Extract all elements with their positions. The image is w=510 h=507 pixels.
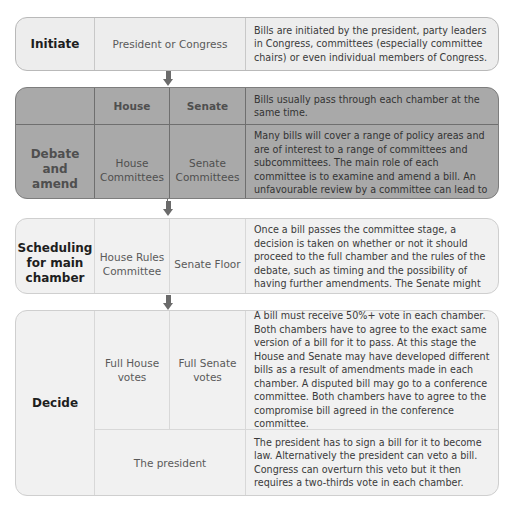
stage-decide: Decide Full House votes Full Senate vote…: [15, 310, 499, 496]
senate-cell: Senate Floor: [169, 219, 245, 294]
stage-description: Many bills will cover a range of policy …: [245, 124, 498, 199]
stage-description: Bills are initiated by the president, pa…: [245, 18, 498, 70]
house-cell: House Committees: [94, 124, 169, 199]
house-cell: House Rules Committee: [94, 219, 169, 294]
stage-label: Decide: [16, 311, 94, 495]
president-description: The president has to sign a bill for it …: [245, 429, 498, 495]
down-arrow-icon: [163, 199, 174, 217]
stage-description: A bill must receive 50%+ vote in each ch…: [245, 311, 498, 429]
header-description: Bills usually pass through each chamber …: [245, 88, 498, 124]
down-arrow-icon: [163, 294, 174, 310]
stage-initiate: Initiate President or Congress Bills are…: [15, 17, 499, 71]
house-cell: Full House votes: [94, 311, 169, 429]
stage-label: Initiate: [16, 18, 94, 70]
stage-scheduling: Scheduling for main chamber House Rules …: [15, 218, 499, 294]
actor-cell: President or Congress: [94, 18, 245, 70]
senate-cell: Full Senate votes: [169, 311, 245, 429]
stage-label: Scheduling for main chamber: [16, 219, 94, 294]
stage-description: Once a bill passes the committee stage, …: [245, 219, 498, 294]
empty-header-cell: [16, 88, 94, 124]
house-header: House: [94, 88, 169, 124]
stage-label: Debate and amend: [16, 124, 94, 199]
down-arrow-icon: [163, 71, 174, 86]
president-cell: The president: [94, 429, 245, 495]
senate-cell: Senate Committees: [169, 124, 245, 199]
senate-header: Senate: [169, 88, 245, 124]
stage-debate-and-amend: House Senate Bills usually pass through …: [15, 87, 499, 199]
